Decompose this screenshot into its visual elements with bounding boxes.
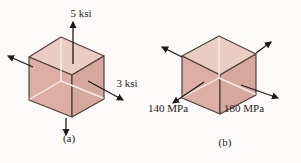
cube-a-figure-label: (a) xyxy=(63,132,76,145)
cube-b-right-stress-label: 180 MPa xyxy=(224,102,264,114)
figure-canvas: 5 ksi 3 ksi (a) 140 MPa 180 MPa (b) xyxy=(0,0,301,163)
biaxial-stress-elements-figure: 5 ksi 3 ksi (a) 140 MPa 180 MPa (b) xyxy=(0,0,301,163)
cube-b-figure-label: (b) xyxy=(219,136,232,149)
cube-a-horizontal-stress-label: 3 ksi xyxy=(116,77,137,89)
cube-a-vertical-stress-label: 5 ksi xyxy=(70,7,91,19)
cube-b-left-stress-label: 140 MPa xyxy=(148,102,188,114)
